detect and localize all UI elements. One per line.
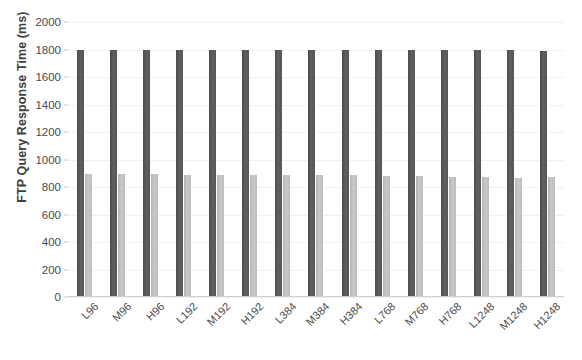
bar-series-1 — [474, 50, 481, 298]
bar-series-2 — [416, 176, 423, 297]
y-axis-tick-label: 2000 — [21, 16, 61, 28]
bar-series-2 — [383, 176, 390, 297]
bar-group — [366, 22, 399, 297]
x-axis-tick-label: H192 — [238, 300, 265, 327]
bar-group — [101, 22, 134, 297]
x-axis-tick-label: H768 — [437, 300, 464, 327]
bar-group — [299, 22, 332, 297]
y-axis-title: FTP Query Response Time (ms) — [15, 0, 29, 232]
y-axis-tick-label: 1600 — [21, 71, 61, 83]
bar-series-2 — [449, 177, 456, 297]
bar-series-2 — [151, 174, 158, 297]
y-axis-tick-label: 600 — [21, 209, 61, 221]
bar-series-1 — [308, 50, 315, 298]
bar-series-2 — [548, 177, 555, 297]
y-axis-tick-label: 1800 — [21, 44, 61, 56]
bar-series-1 — [110, 50, 117, 298]
bar-series-2 — [283, 175, 290, 297]
x-axis-tick-label: L1248 — [467, 300, 497, 330]
x-axis-tick-label: H384 — [337, 300, 364, 327]
x-axis-tick-label: L384 — [273, 300, 299, 326]
y-axis-tick-label: 800 — [21, 181, 61, 193]
y-axis-tick-label: 0 — [21, 291, 61, 303]
x-axis-tick-label: H96 — [143, 300, 166, 323]
bar-series-2 — [515, 178, 522, 297]
bar-series-1 — [342, 50, 349, 298]
bar-series-2 — [118, 174, 125, 297]
x-axis-line — [68, 296, 564, 297]
bar-series-2 — [350, 175, 357, 297]
bar-group — [68, 22, 101, 297]
bar-series-1 — [507, 50, 514, 297]
bar-group — [432, 22, 465, 297]
bar-series-1 — [540, 51, 547, 297]
bar-group — [266, 22, 299, 297]
bar-groups — [68, 22, 564, 297]
x-axis-tick-label: M96 — [109, 300, 133, 324]
y-axis-tick-label: 400 — [21, 236, 61, 248]
bar-series-2 — [316, 175, 323, 297]
bar-series-1 — [275, 50, 282, 298]
bar-group — [167, 22, 200, 297]
bar-series-2 — [217, 175, 224, 297]
bar-series-1 — [408, 50, 415, 298]
y-axis-tick-label: 1000 — [21, 154, 61, 166]
bar-group — [134, 22, 167, 297]
bar-chart: FTP Query Response Time (ms) 02004006008… — [0, 0, 582, 360]
bar-series-1 — [441, 50, 448, 298]
bar-series-1 — [375, 50, 382, 298]
bar-group — [333, 22, 366, 297]
bar-series-2 — [482, 177, 489, 297]
bar-series-1 — [143, 50, 150, 298]
x-axis-tick-label: L768 — [372, 300, 398, 326]
bar-series-1 — [77, 50, 84, 298]
bar-group — [399, 22, 432, 297]
x-axis-tick-label: L192 — [173, 300, 199, 326]
bar-series-1 — [176, 50, 183, 298]
bar-series-2 — [250, 175, 257, 297]
bar-series-2 — [184, 175, 191, 297]
x-axis-tick-label: H1248 — [532, 300, 563, 331]
bar-group — [498, 22, 531, 297]
gridline — [68, 297, 564, 298]
x-axis-tick-label: M192 — [204, 300, 232, 328]
x-axis-tick-label: L96 — [79, 300, 100, 321]
x-axis-tick-label: M768 — [403, 300, 431, 328]
x-axis-tick-label: M384 — [304, 300, 332, 328]
bar-series-1 — [209, 50, 216, 298]
x-axis-tick-labels: L96M96H96L192M192H192L384M384H384L768M76… — [68, 300, 564, 358]
y-axis-tick-label: 200 — [21, 264, 61, 276]
bar-series-1 — [242, 50, 249, 298]
bar-series-2 — [85, 174, 92, 297]
bar-group — [531, 22, 564, 297]
bar-group — [465, 22, 498, 297]
plot-area — [68, 22, 564, 297]
bar-group — [233, 22, 266, 297]
y-axis-tick-label: 1200 — [21, 126, 61, 138]
y-axis-tick-label: 1400 — [21, 99, 61, 111]
bar-group — [200, 22, 233, 297]
x-axis-tick-label: M1248 — [498, 300, 530, 332]
